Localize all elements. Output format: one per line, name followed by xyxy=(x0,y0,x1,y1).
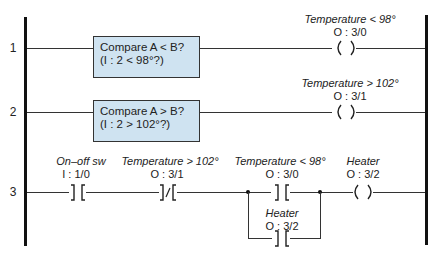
contact-no-temp-low-icon xyxy=(270,184,294,202)
rung-3-wire-right xyxy=(373,192,425,193)
compare-block-rung-2-line2: (I : 2 > 102°?) xyxy=(100,118,193,131)
rung-2-wire-right xyxy=(356,112,425,113)
right-power-rail xyxy=(425,15,428,245)
branch-wire-left-vertical xyxy=(248,192,249,238)
rung-number-1: 1 xyxy=(6,41,20,55)
output-coil-rung-1-name: Temperature < 98° xyxy=(290,13,410,25)
rung-2-wire-mid xyxy=(200,112,332,113)
output-coil-rung-2-address: O : 3/1 xyxy=(310,90,390,102)
rung-1-wire-right xyxy=(356,48,425,49)
contact-onoff-address: I : 1/0 xyxy=(51,168,101,180)
contact-onoff-name: On–off sw xyxy=(46,155,116,167)
rung-1-wire-mid xyxy=(200,48,332,49)
compare-block-rung-2-line1: Compare A > B? xyxy=(100,105,193,118)
contact-temp-high-name: Temperature > 102° xyxy=(110,155,230,167)
contact-temp-low-name: Temperature < 98° xyxy=(225,155,335,167)
left-power-rail xyxy=(24,17,27,246)
rung-3-wire-3 xyxy=(177,192,271,193)
rung-3-wire-1 xyxy=(27,192,69,193)
contact-temp-high-address: O : 3/1 xyxy=(142,168,192,180)
rung-3-wire-2 xyxy=(86,192,159,193)
rung-2-wire-left xyxy=(27,112,93,113)
rung-1-wire-left xyxy=(27,48,93,49)
output-coil-rung-1-address: O : 3/0 xyxy=(310,26,390,38)
branch-wire-bottom-left xyxy=(248,238,272,239)
contact-no-onoff-icon xyxy=(66,184,90,202)
output-coil-heater-name: Heater xyxy=(338,155,388,167)
contact-heater-branch-name: Heater xyxy=(257,207,307,219)
branch-wire-bottom-right xyxy=(290,238,321,239)
contact-nc-temp-high-icon xyxy=(155,184,181,202)
compare-block-rung-1-line1: Compare A < B? xyxy=(100,41,193,54)
contact-no-heater-branch-icon xyxy=(270,230,294,248)
compare-block-rung-1: Compare A < B? (I : 2 < 98°?) xyxy=(93,36,200,78)
compare-block-rung-2: Compare A > B? (I : 2 > 102°?) xyxy=(93,100,200,142)
contact-temp-low-address: O : 3/0 xyxy=(257,168,307,180)
rung-number-2: 2 xyxy=(6,105,20,119)
output-coil-heater-address: O : 3/2 xyxy=(338,168,388,180)
compare-block-rung-1-line2: (I : 2 < 98°?) xyxy=(100,54,193,67)
branch-wire-right-vertical xyxy=(320,192,321,238)
output-coil-rung-2-name: Temperature > 102° xyxy=(285,77,415,89)
rung-number-3: 3 xyxy=(6,185,20,199)
